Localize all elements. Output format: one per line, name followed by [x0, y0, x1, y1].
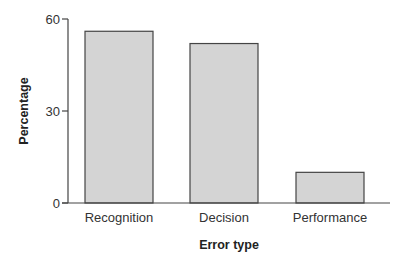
x-tick-label-performance: Performance	[293, 210, 367, 225]
y-tick-label: 60	[46, 12, 60, 27]
bar-recognition	[85, 31, 153, 203]
y-tick-label: 0	[53, 196, 60, 211]
y-ticks: 03060	[46, 12, 68, 211]
x-tick-labels: RecognitionDecisionPerformance	[85, 210, 368, 225]
bar-chart: 03060 RecognitionDecisionPerformance Per…	[0, 0, 410, 265]
x-tick-label-decision: Decision	[199, 210, 249, 225]
x-tick-label-recognition: Recognition	[85, 210, 154, 225]
bar-performance	[296, 172, 364, 203]
bars	[85, 31, 364, 203]
bar-decision	[190, 44, 258, 203]
y-tick-label: 30	[46, 104, 60, 119]
y-axis-title: Percentage	[17, 77, 31, 144]
x-axis-title: Error type	[199, 238, 259, 252]
